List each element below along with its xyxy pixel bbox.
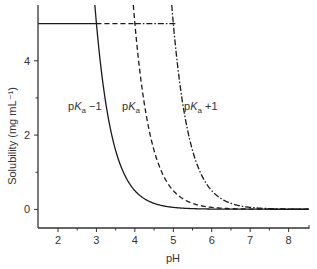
solubility-ph-chart: 2345678024 pKa −1pKapKa +1 pH Solubility… (0, 0, 317, 269)
y-tick-label: 4 (24, 55, 30, 67)
x-tick-label: 6 (209, 234, 215, 246)
chart-canvas: 2345678024 pKa −1pKapKa +1 pH Solubility… (0, 0, 317, 269)
x-tick-label: 7 (247, 234, 253, 246)
y-tick-label: 2 (24, 129, 30, 141)
series-label: pKa −1 (68, 100, 102, 115)
x-tick-label: 2 (55, 234, 61, 246)
x-axis-label: pH (166, 252, 180, 264)
curve-dashed (133, 5, 308, 209)
y-tick-label: 0 (24, 203, 30, 215)
x-tick-label: 5 (170, 234, 176, 246)
y-axis-label: Solubility (mg mL⁻¹) (6, 87, 18, 185)
series-label: pKa +1 (184, 100, 218, 115)
series-labels: pKa −1pKapKa +1 (68, 100, 218, 115)
x-tick-label: 4 (132, 234, 138, 246)
x-tick-label: 8 (286, 234, 292, 246)
series-label: pKa (122, 100, 140, 115)
x-tick-label: 3 (93, 234, 99, 246)
